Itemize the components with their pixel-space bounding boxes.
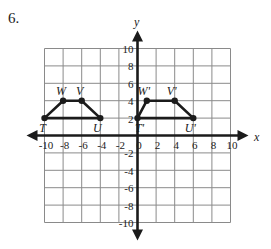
- vertex-point: [79, 98, 85, 104]
- x-tick-label: 0: [136, 139, 142, 151]
- x-tick-label: -6: [79, 139, 89, 151]
- x-tick-label: -4: [97, 139, 107, 151]
- x-axis-label: x: [253, 130, 260, 144]
- y-tick-label: 6: [128, 78, 134, 90]
- y-tick-label: -2: [124, 147, 133, 159]
- vertex-label: U': [185, 121, 197, 135]
- y-axis-label: y: [133, 15, 140, 29]
- vertex-label: U: [93, 121, 103, 135]
- shape-edge: [175, 101, 194, 118]
- shape-edge: [45, 101, 64, 118]
- x-tick-label: 8: [211, 139, 217, 151]
- y-tick-label: -10: [119, 217, 134, 229]
- y-tick-label: 10: [123, 43, 135, 55]
- shape-edge: [82, 101, 101, 118]
- y-tick-label: 8: [128, 60, 134, 72]
- x-tick-label: 6: [192, 139, 198, 151]
- vertex-label: T': [135, 121, 145, 135]
- coordinate-plane-figure: -10-8-6-4-20246810108642-2-4-6-8-10 TWVU…: [0, 0, 271, 249]
- x-tick-label: 2: [155, 139, 161, 151]
- x-tick-label: 10: [227, 139, 239, 151]
- y-tick-label: 2: [128, 113, 134, 125]
- vertex-point: [144, 98, 150, 104]
- vertex-label: W: [56, 84, 67, 98]
- y-tick-label: 4: [128, 95, 134, 107]
- vertex-point: [60, 98, 66, 104]
- vertex-label: V': [167, 84, 177, 98]
- vertex-label: T: [39, 121, 47, 135]
- y-axis-arrow-down: [132, 230, 143, 241]
- y-tick-label: -4: [124, 165, 134, 177]
- vertex-point: [172, 98, 178, 104]
- x-axis-arrow-right: [238, 130, 249, 141]
- axes: [27, 31, 249, 241]
- vertex-label: W': [138, 84, 151, 98]
- x-axis-arrow-left: [27, 130, 38, 141]
- y-tick-label: -6: [124, 182, 134, 194]
- vertex-label: V: [76, 84, 85, 98]
- coordinate-plane-svg: -10-8-6-4-20246810108642-2-4-6-8-10 TWVU…: [0, 0, 271, 249]
- x-tick-label: 4: [173, 139, 179, 151]
- y-tick-label: -8: [124, 200, 134, 212]
- x-tick-label: -8: [60, 139, 70, 151]
- y-axis-arrow-up: [132, 31, 143, 42]
- x-tick-label: -10: [39, 139, 54, 151]
